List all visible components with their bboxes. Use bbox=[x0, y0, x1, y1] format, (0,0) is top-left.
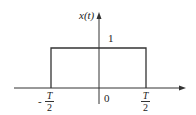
left-tick-label: T 2 bbox=[45, 91, 54, 112]
left-tick-denominator: 2 bbox=[47, 103, 52, 112]
x-axis-arrow-icon bbox=[179, 86, 186, 91]
right-tick-label: T 2 bbox=[141, 91, 150, 112]
amplitude-label: 1 bbox=[108, 33, 114, 44]
right-tick-numerator: T bbox=[143, 91, 149, 100]
origin-label: 0 bbox=[104, 93, 110, 104]
y-axis-arrow-icon bbox=[97, 12, 102, 19]
left-tick-sign: - bbox=[38, 96, 42, 107]
right-tick-denominator: 2 bbox=[143, 103, 148, 112]
y-axis-label: x(t) bbox=[79, 10, 94, 21]
left-tick-numerator: T bbox=[47, 91, 53, 100]
pulse-plot bbox=[0, 0, 196, 115]
